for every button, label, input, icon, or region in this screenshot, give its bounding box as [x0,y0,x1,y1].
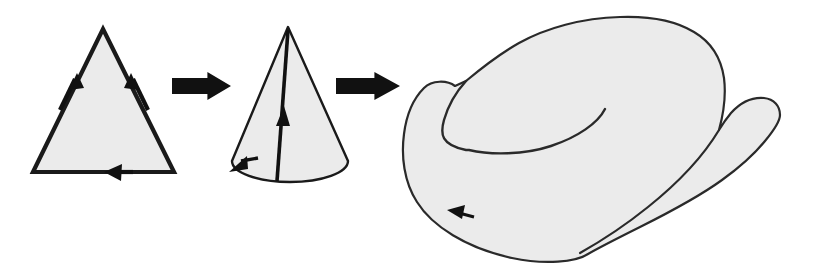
dunce-hat-body [403,17,780,262]
connector-arrow-2 [336,72,400,100]
figure-canvas [0,0,825,269]
stage-triangle [33,29,174,181]
dunce-hat-figure [0,0,825,269]
connector-arrow-1 [172,72,231,100]
stage-dunce-hat [403,17,780,262]
stage-cone [229,27,348,182]
triangle-body [33,29,174,172]
